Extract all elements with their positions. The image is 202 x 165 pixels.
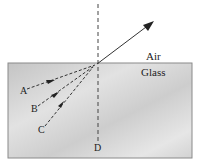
label-ray-b: B: [31, 103, 38, 114]
label-ray-c: C: [38, 124, 45, 135]
refraction-diagram: Air Glass A B C D: [0, 0, 202, 165]
label-glass: Glass: [141, 66, 165, 78]
label-ray-a: A: [20, 85, 28, 96]
label-air: Air: [146, 50, 161, 62]
refracted-ray: [97, 24, 150, 64]
label-normal-d: D: [94, 142, 101, 153]
refracted-ray-arrowhead: [143, 21, 154, 31]
